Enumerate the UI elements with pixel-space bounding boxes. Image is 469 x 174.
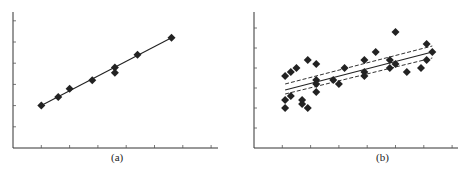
data-point (287, 68, 295, 76)
data-point (281, 104, 289, 112)
data-point (111, 69, 119, 77)
data-point (281, 72, 289, 80)
data-point (392, 28, 400, 36)
data-point (428, 48, 436, 56)
caption-b: (b) (376, 151, 389, 163)
data-point (312, 88, 320, 96)
data-point (403, 68, 411, 76)
data-point (37, 102, 45, 110)
fit-line (41, 38, 171, 106)
figure-canvas (0, 0, 469, 174)
panel-a (13, 12, 218, 148)
data-point (292, 64, 300, 72)
data-point (304, 104, 312, 112)
confidence-band (285, 46, 432, 84)
data-point (372, 48, 380, 56)
data-point (66, 85, 74, 93)
data-point (335, 80, 343, 88)
data-point (417, 64, 425, 72)
data-point (54, 93, 62, 101)
data-point (304, 56, 312, 64)
data-point (167, 34, 175, 42)
data-point (386, 64, 394, 72)
data-point (341, 64, 349, 72)
panel-b (254, 12, 458, 148)
data-point (312, 60, 320, 68)
data-point (281, 96, 289, 104)
data-point (423, 56, 431, 64)
caption-a: (a) (111, 151, 123, 163)
data-point (423, 40, 431, 48)
